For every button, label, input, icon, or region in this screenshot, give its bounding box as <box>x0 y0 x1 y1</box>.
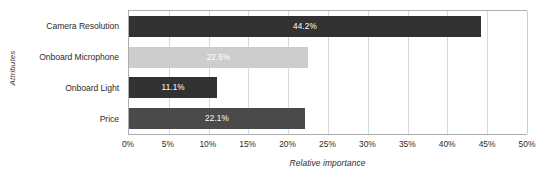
bar[interactable]: 44.2% <box>129 16 481 37</box>
bar-chart: Attributes Camera ResolutionOnboard Micr… <box>0 0 559 191</box>
bar-value-label: 22.5% <box>207 53 231 62</box>
bar[interactable]: 11.1% <box>129 77 217 98</box>
plot-area: 44.2%22.5%11.1%22.1% <box>128 10 527 135</box>
category-axis-labels: Camera ResolutionOnboard MicrophoneOnboa… <box>26 10 124 135</box>
x-tick-label: 5% <box>162 139 174 149</box>
category-label: Onboard Microphone <box>26 41 124 72</box>
category-label: Price <box>26 104 124 135</box>
x-tick-label: 20% <box>279 139 296 149</box>
bar-row: 22.1% <box>129 103 527 134</box>
x-tick-label: 30% <box>359 139 376 149</box>
category-label: Camera Resolution <box>26 10 124 41</box>
bar-row: 22.5% <box>129 42 527 73</box>
bar-row: 44.2% <box>129 11 527 42</box>
category-label: Onboard Light <box>26 73 124 104</box>
x-tick-label: 25% <box>319 139 336 149</box>
x-tick-label: 40% <box>439 139 456 149</box>
x-tick-label: 50% <box>519 139 536 149</box>
x-axis-tick-labels: 0%5%10%15%20%25%30%35%40%45%50% <box>128 139 527 153</box>
bar-series: 44.2%22.5%11.1%22.1% <box>129 11 527 134</box>
bar-row: 11.1% <box>129 73 527 104</box>
bar-value-label: 44.2% <box>293 22 317 31</box>
bar[interactable]: 22.1% <box>129 108 305 129</box>
x-tick-label: 0% <box>122 139 134 149</box>
x-axis-title: Relative importance <box>128 158 527 168</box>
y-axis-title: Attributes <box>8 38 22 98</box>
x-tick-label: 10% <box>199 139 216 149</box>
bar-value-label: 11.1% <box>162 83 185 92</box>
bar[interactable]: 22.5% <box>129 47 308 68</box>
bar-value-label: 22.1% <box>205 114 229 123</box>
gridline <box>527 11 528 134</box>
x-tick-label: 45% <box>479 139 496 149</box>
x-tick-label: 15% <box>239 139 256 149</box>
x-tick-label: 35% <box>399 139 416 149</box>
